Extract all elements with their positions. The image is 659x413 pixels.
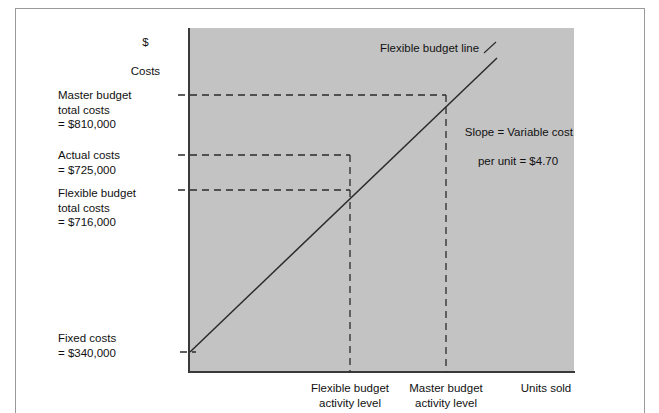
plot-area: [188, 28, 574, 372]
y-axis-title-currency: $: [142, 36, 148, 48]
master-budget-total-costs-label: Master budget total costs = $810,000: [58, 88, 174, 132]
flexible-budget-total-costs-label: Flexible budget total costs = $716,000: [58, 186, 174, 230]
slope-annotation: Slope = Variable cost per unit = $4.70: [452, 110, 584, 197]
slope-annotation-line1: Slope = Variable cost: [465, 126, 573, 138]
x-label-units-sold: Units sold: [494, 381, 598, 396]
fixed-costs-label: Fixed costs = $340,000: [58, 331, 174, 360]
flexible-budget-figure: $ Costs Master budget total costs = $810…: [0, 0, 659, 413]
y-axis-line: [188, 28, 190, 373]
y-axis-title: $ Costs: [108, 20, 170, 93]
y-axis-title-costs: Costs: [131, 65, 160, 77]
actual-costs-label: Actual costs = $725,000: [58, 148, 174, 177]
flexible-budget-line-annotation: Flexible budget line: [380, 41, 498, 56]
slope-annotation-line2: per unit = $4.70: [452, 154, 584, 169]
x-axis-line: [188, 371, 575, 373]
x-label-master-budget-activity-level: Master budget activity level: [384, 381, 508, 410]
